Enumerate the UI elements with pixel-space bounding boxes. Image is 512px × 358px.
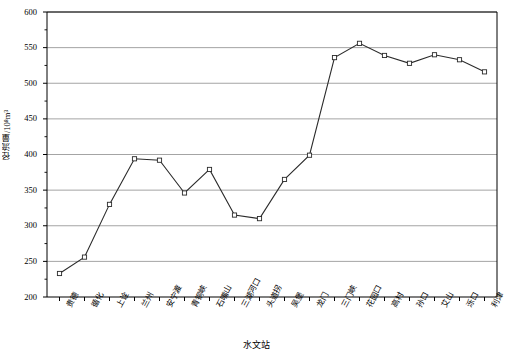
data-point-marker [257,217,261,221]
data-point-marker [132,157,136,161]
y-tick-label: 450 [7,113,37,123]
data-point-marker [457,58,461,62]
plot-area [0,0,512,358]
data-point-marker [307,153,311,157]
data-point-marker [382,53,386,57]
data-point-marker [232,213,236,217]
y-tick-label: 250 [7,256,37,266]
data-point-marker [157,158,161,162]
data-point-marker [432,53,436,57]
data-point-marker [82,255,86,259]
data-point-marker [107,202,111,206]
data-point-marker [332,56,336,60]
data-series-line [60,43,485,273]
data-point-marker [207,167,211,171]
data-point-marker [407,61,411,65]
y-tick-label: 600 [7,7,37,17]
y-tick-label: 500 [7,78,37,88]
y-tick-label: 300 [7,220,37,230]
data-point-marker [357,41,361,45]
data-point-marker [57,271,61,275]
data-point-marker [182,191,186,195]
runoff-line-chart: 径流量/10⁸m³ 水文站 20025030035040045050055060… [0,0,512,358]
data-point-marker [482,70,486,74]
y-tick-label: 550 [7,42,37,52]
y-tick-label: 400 [7,149,37,159]
y-tick-label: 200 [7,292,37,302]
data-point-marker [282,177,286,181]
y-tick-label: 350 [7,185,37,195]
